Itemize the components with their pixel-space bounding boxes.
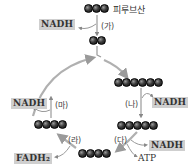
six-carbon-chain: [114, 78, 162, 87]
tca-cycle-diagram: 피루브산 NADH (가) (나) NADH (다) NADH ATP (라) …: [0, 0, 195, 168]
carbon-atom-icon: [102, 149, 111, 158]
atp-label: ATP: [138, 153, 156, 163]
step-label-na: (나): [125, 98, 138, 109]
carbon-atom-icon: [149, 121, 158, 130]
carbon-atom-icon: [154, 78, 163, 87]
four-carbon-chain-left: [34, 120, 66, 129]
four-carbon-chain-bottom: [78, 149, 110, 158]
carbon-atom-icon: [97, 36, 106, 45]
step-label-ma: (마): [55, 99, 68, 110]
carbon-atom-icon: [58, 120, 67, 129]
nadh-box-da: NADH: [149, 140, 185, 151]
step-label-ga: (가): [101, 20, 114, 31]
nadh-box-ma: NADH: [11, 98, 47, 109]
pyruvate-carbon-chain: [84, 4, 108, 13]
acetyl-carbon-chain: [89, 36, 105, 45]
pyruvate-label: 피루브산: [113, 3, 145, 16]
fadh2-box-ra: FADH₂: [14, 153, 52, 164]
nadh-box-ga: NADH: [39, 19, 75, 30]
carbon-atom-icon: [100, 4, 109, 13]
nadh-box-na: NADH: [152, 97, 188, 108]
step-label-da: (다): [114, 134, 127, 145]
five-carbon-chain: [117, 121, 157, 130]
step-label-ra: (라): [68, 134, 81, 145]
